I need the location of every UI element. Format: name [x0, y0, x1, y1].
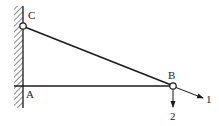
hinge-c [20, 23, 26, 29]
truss-diagram: C A B 1 2 [0, 0, 219, 126]
label-direction-1: 1 [206, 93, 212, 105]
wall-support [14, 6, 23, 108]
label-a: A [26, 88, 34, 100]
label-direction-2: 2 [170, 110, 176, 122]
hinge-b [170, 83, 176, 89]
member-cb [26, 28, 170, 85]
label-b: B [168, 69, 175, 81]
label-c: C [28, 9, 35, 21]
arrow-direction-1 [176, 88, 203, 99]
